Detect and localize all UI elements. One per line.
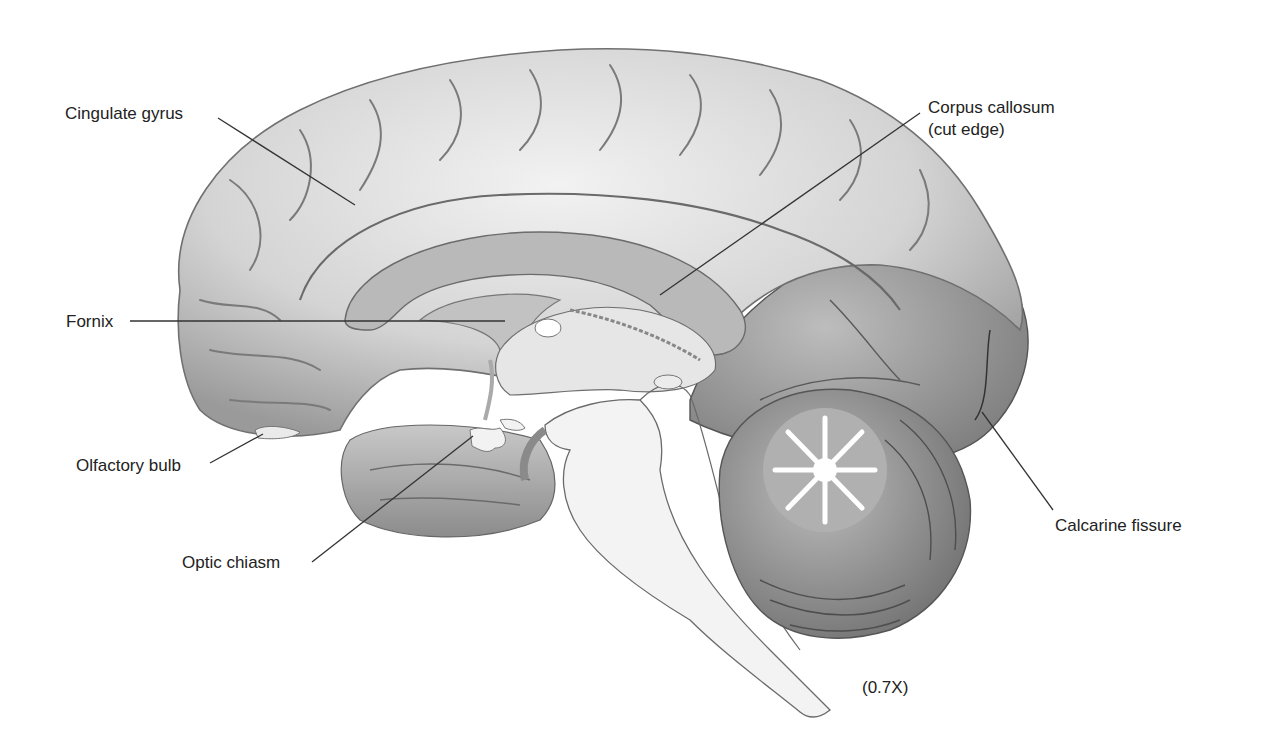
pineal-region: [654, 375, 682, 389]
label-corpus-callosum-sub: (cut edge): [928, 119, 1005, 140]
leader-calcarine-fissure: [982, 412, 1053, 510]
label-optic-chiasm: Optic chiasm: [182, 552, 280, 573]
arbor-vitae: [763, 408, 887, 532]
brain-illustration: [0, 0, 1279, 747]
magnification-label: (0.7X): [862, 677, 908, 698]
temporal-lobe: [341, 425, 555, 537]
label-olfactory-bulb: Olfactory bulb: [76, 455, 181, 476]
interthalamic-adhesion: [535, 319, 561, 337]
label-cingulate-gyrus: Cingulate gyrus: [65, 103, 183, 124]
label-fornix: Fornix: [66, 311, 113, 332]
cerebellum: [719, 389, 970, 638]
leader-olfactory-bulb: [210, 434, 263, 463]
label-calcarine-fissure: Calcarine fissure: [1055, 515, 1182, 536]
brain-diagram: Cingulate gyrus Corpus callosum (cut edg…: [0, 0, 1279, 747]
label-corpus-callosum: Corpus callosum: [928, 97, 1055, 118]
